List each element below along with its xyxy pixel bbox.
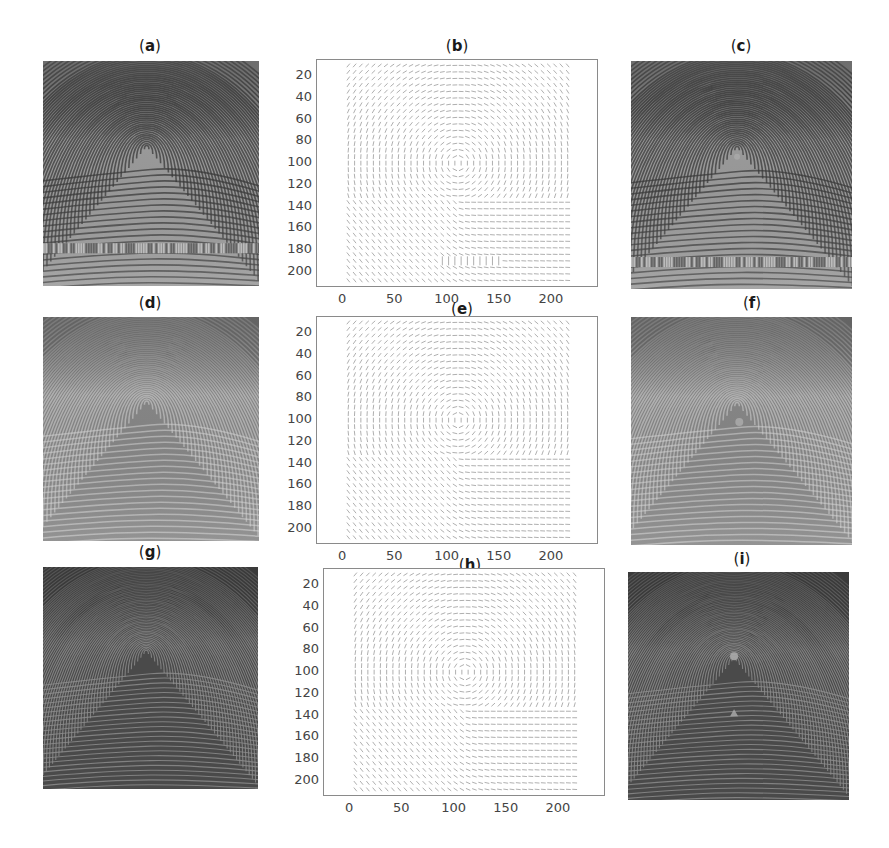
fingerprint-image-c (631, 61, 852, 289)
x-tick-label: 200 (531, 548, 571, 563)
x-tick-label: 0 (322, 548, 362, 563)
panel-label-g: (g) (120, 543, 180, 561)
y-tick-label: 40 (276, 346, 312, 361)
x-tick-label: 150 (486, 800, 526, 815)
y-tick-label: 20 (283, 576, 319, 591)
y-tick-label: 80 (283, 641, 319, 656)
y-tick-label: 180 (283, 750, 319, 765)
y-tick-label: 180 (276, 498, 312, 513)
y-tick-label: 200 (276, 263, 312, 278)
y-tick-label: 80 (276, 389, 312, 404)
panel-label-a: (a) (120, 37, 180, 55)
panel-label-b: (b) (427, 37, 487, 55)
x-tick-label: 0 (329, 800, 369, 815)
x-tick-label: 200 (538, 800, 578, 815)
panel-label-c: (c) (711, 37, 771, 55)
y-tick-label: 20 (276, 67, 312, 82)
plot-axes-box (316, 59, 598, 287)
x-tick-label: 50 (374, 291, 414, 306)
y-tick-label: 40 (283, 598, 319, 613)
fingerprint-image-d (43, 317, 259, 541)
y-tick-label: 100 (276, 154, 312, 169)
fingerprint-image-a (43, 61, 259, 286)
panel-label-f: (f) (722, 294, 782, 312)
fingerprint-image-i (628, 572, 849, 800)
fingerprint-image-f (631, 317, 852, 545)
y-tick-label: 60 (276, 368, 312, 383)
y-tick-label: 180 (276, 241, 312, 256)
y-tick-label: 100 (283, 663, 319, 678)
plot-axes-box (316, 316, 598, 544)
y-tick-label: 120 (276, 433, 312, 448)
orientation-field-plot-h: 20406080100120140160180200050100150200 (283, 568, 608, 824)
y-tick-label: 100 (276, 411, 312, 426)
y-tick-label: 40 (276, 89, 312, 104)
fingerprint-image-g (43, 567, 258, 789)
y-tick-label: 200 (283, 772, 319, 787)
y-tick-label: 120 (283, 685, 319, 700)
x-tick-label: 200 (531, 291, 571, 306)
x-tick-label: 100 (434, 800, 474, 815)
y-tick-label: 120 (276, 176, 312, 191)
y-tick-label: 200 (276, 520, 312, 535)
y-tick-label: 20 (276, 324, 312, 339)
orientation-field-plot-e: 20406080100120140160180200050100150200 (276, 316, 601, 566)
y-tick-label: 60 (276, 111, 312, 126)
y-tick-label: 160 (283, 728, 319, 743)
y-tick-label: 160 (276, 476, 312, 491)
x-tick-label: 50 (374, 548, 414, 563)
y-tick-label: 160 (276, 219, 312, 234)
x-tick-label: 50 (381, 800, 421, 815)
x-tick-label: 0 (322, 291, 362, 306)
y-tick-label: 140 (276, 198, 312, 213)
panel-label-i: (i) (712, 550, 772, 568)
plot-axes-box (323, 568, 605, 796)
panel-label-d: (d) (120, 294, 180, 312)
orientation-field-plot-b: 20406080100120140160180200050100150200 (276, 59, 601, 314)
y-tick-label: 140 (283, 707, 319, 722)
y-tick-label: 140 (276, 455, 312, 470)
y-tick-label: 60 (283, 620, 319, 635)
y-tick-label: 80 (276, 132, 312, 147)
